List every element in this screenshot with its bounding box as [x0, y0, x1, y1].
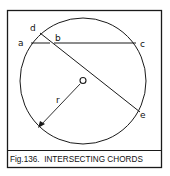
intersecting-chords-figure: d a b c e r Fig.136. INTERSECTING CHORDS [0, 0, 170, 176]
label-d: d [30, 23, 36, 33]
center-point [80, 78, 86, 84]
label-a: a [18, 38, 24, 48]
label-e: e [140, 110, 146, 120]
figure-caption: Fig.136. INTERSECTING CHORDS [10, 155, 143, 164]
radius-line [40, 84, 80, 126]
label-b: b [55, 33, 61, 43]
label-r: r [56, 95, 60, 105]
label-c: c [140, 39, 145, 49]
chord-de [40, 33, 140, 112]
